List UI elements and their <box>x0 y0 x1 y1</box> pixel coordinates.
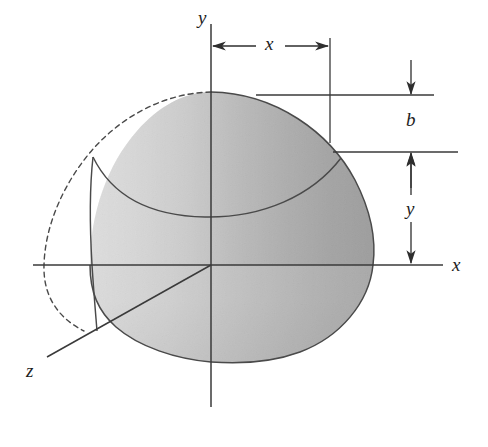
diagram-canvas <box>0 0 488 447</box>
y-axis-label: y <box>198 8 206 27</box>
y-dimension-label: y <box>403 199 417 218</box>
x-axis-label: x <box>452 255 460 274</box>
b-dimension-label: b <box>403 110 419 129</box>
paper-grain <box>30 80 460 380</box>
z-axis-label: z <box>26 361 33 380</box>
hemisphere-solid <box>30 80 460 380</box>
x-dimension-label: x <box>262 34 276 53</box>
figure-container: y x z x b y <box>0 0 488 447</box>
